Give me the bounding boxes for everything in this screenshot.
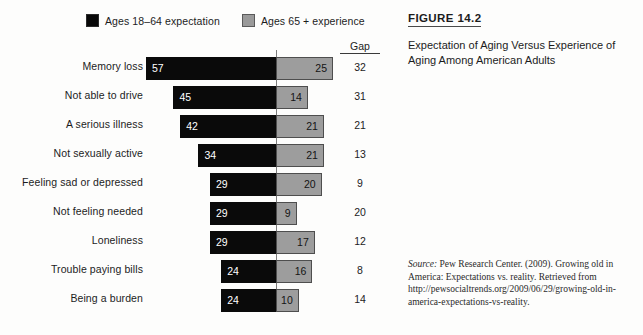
bar-row: Not able to drive451431 [0, 85, 392, 114]
legend-label-expectation: Ages 18–64 expectation [105, 15, 220, 27]
bar-value-expectation: 24 [222, 266, 244, 277]
bar-expectation: 34 [198, 144, 276, 167]
bar-group: 4221 [0, 115, 392, 138]
gap-value: 9 [340, 177, 380, 189]
source-text: Pew Research Center. (2009). Growing old… [408, 259, 616, 307]
chart-panel: Ages 18–64 expectation Ages 65 + experie… [0, 0, 392, 335]
bar-row: Loneliness291712 [0, 230, 392, 259]
bar-value-experience: 20 [299, 179, 321, 190]
bar-row: Not sexually active342113 [0, 143, 392, 172]
bar-value-expectation: 29 [211, 237, 233, 248]
bar-expectation: 42 [180, 115, 276, 138]
legend-item-experience: Ages 65 + experience [242, 14, 365, 27]
bar-value-experience: 21 [301, 150, 323, 161]
bar-value-expectation: 34 [199, 150, 221, 161]
bar-experience: 25 [276, 57, 333, 80]
bar-experience: 16 [276, 260, 312, 283]
bar-experience: 14 [276, 86, 308, 109]
bar-experience: 17 [276, 231, 315, 254]
bar-value-experience: 17 [292, 237, 314, 248]
bar-value-experience: 9 [280, 208, 296, 219]
bar-row: Being a burden241014 [0, 288, 392, 317]
bar-expectation: 24 [221, 289, 276, 312]
bar-expectation: 24 [221, 260, 276, 283]
plot-area: Memory loss572532Not able to drive451431… [0, 56, 392, 321]
bar-experience: 20 [276, 173, 322, 196]
bar-expectation: 29 [210, 173, 276, 196]
bar-value-expectation: 29 [211, 179, 233, 190]
bar-value-expectation: 45 [174, 92, 196, 103]
bar-value-experience: 16 [290, 266, 312, 277]
legend-swatch-gray-icon [242, 14, 255, 27]
bar-value-experience: 21 [301, 121, 323, 132]
bar-value-expectation: 29 [211, 208, 233, 219]
gap-value: 12 [340, 235, 380, 247]
legend-label-experience: Ages 65 + experience [261, 15, 365, 27]
source-note: Source: Pew Research Center. (2009). Gro… [408, 258, 640, 308]
chart-legend: Ages 18–64 expectation Ages 65 + experie… [86, 14, 365, 27]
gap-value: 31 [340, 90, 380, 102]
figure-title: Expectation of Aging Versus Experience o… [408, 38, 636, 68]
bar-value-expectation: 57 [147, 63, 169, 74]
bar-group: 3421 [0, 144, 392, 167]
gap-value: 13 [340, 148, 380, 160]
gap-value: 32 [340, 61, 380, 73]
bar-expectation: 45 [173, 86, 276, 109]
legend-item-expectation: Ages 18–64 expectation [86, 14, 220, 27]
bar-group: 2416 [0, 260, 392, 283]
bar-group: 5725 [0, 57, 392, 80]
gap-value: 21 [340, 119, 380, 131]
bar-expectation: 57 [146, 57, 276, 80]
bar-value-expectation: 24 [222, 295, 244, 306]
bar-group: 2410 [0, 289, 392, 312]
figure-container: Ages 18–64 expectation Ages 65 + experie… [0, 0, 643, 335]
legend-swatch-black-icon [86, 14, 99, 27]
bar-experience: 10 [276, 289, 299, 312]
bar-group: 2917 [0, 231, 392, 254]
bar-value-experience: 10 [276, 295, 298, 306]
bar-group: 2920 [0, 173, 392, 196]
bar-expectation: 29 [210, 202, 276, 225]
bar-row: Feeling sad or depressed29209 [0, 172, 392, 201]
figure-number: FIGURE 14.2 [408, 12, 481, 27]
gap-value: 14 [340, 293, 380, 305]
bar-experience: 9 [276, 202, 297, 225]
bar-group: 4514 [0, 86, 392, 109]
bar-group: 299 [0, 202, 392, 225]
bar-experience: 21 [276, 115, 324, 138]
gap-column-header: Gap [340, 40, 380, 54]
bar-row: A serious illness422121 [0, 114, 392, 143]
bar-experience: 21 [276, 144, 324, 167]
bar-value-experience: 14 [285, 92, 307, 103]
bar-row: Trouble paying bills24168 [0, 259, 392, 288]
bar-value-experience: 25 [310, 63, 332, 74]
bar-expectation: 29 [210, 231, 276, 254]
gap-value: 8 [340, 264, 380, 276]
bar-row: Memory loss572532 [0, 56, 392, 85]
gap-value: 20 [340, 206, 380, 218]
caption-panel: FIGURE 14.2 Expectation of Aging Versus … [408, 0, 643, 335]
source-label: Source: [408, 259, 437, 269]
bar-row: Not feeling needed29920 [0, 201, 392, 230]
bar-value-expectation: 42 [181, 121, 203, 132]
